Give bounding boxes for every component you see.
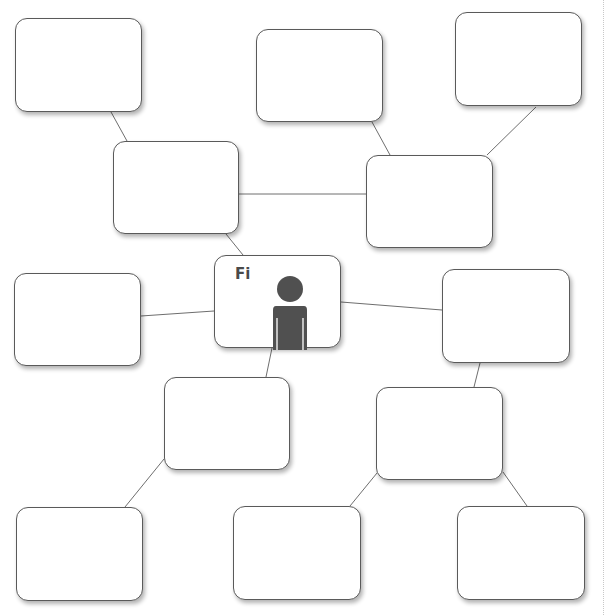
mind-map-node-10[interactable] xyxy=(16,507,143,601)
connector-n3-n5 xyxy=(372,122,390,155)
mind-map-node-4[interactable] xyxy=(455,12,582,106)
mind-map-node-1[interactable] xyxy=(15,18,142,112)
connector-n9-n12 xyxy=(503,472,527,506)
connector-n1-n2 xyxy=(111,112,127,141)
connector-n8-n10 xyxy=(125,459,164,507)
mind-map-node-12[interactable] xyxy=(457,506,585,600)
person-icon xyxy=(271,276,311,350)
connector-n7-n9 xyxy=(474,363,480,387)
connector-center-n8 xyxy=(266,348,272,377)
center-node[interactable]: Fi xyxy=(214,255,341,348)
mind-map-node-5[interactable] xyxy=(366,155,493,248)
mind-map-node-8[interactable] xyxy=(164,377,290,470)
center-node-label: Fi xyxy=(235,265,250,283)
mind-map-node-2[interactable] xyxy=(113,141,239,234)
mind-map-node-7[interactable] xyxy=(442,269,570,363)
connector-n9-n11 xyxy=(350,473,377,506)
connector-n2-center xyxy=(226,234,243,255)
mind-map-node-9[interactable] xyxy=(376,387,503,480)
connector-n4-n5 xyxy=(487,107,536,155)
connector-center-n7 xyxy=(341,302,442,310)
connector-n6-center xyxy=(141,311,214,316)
mind-map-node-11[interactable] xyxy=(233,506,361,600)
mind-map-node-6[interactable] xyxy=(14,273,141,366)
mind-map-node-3[interactable] xyxy=(256,29,383,122)
